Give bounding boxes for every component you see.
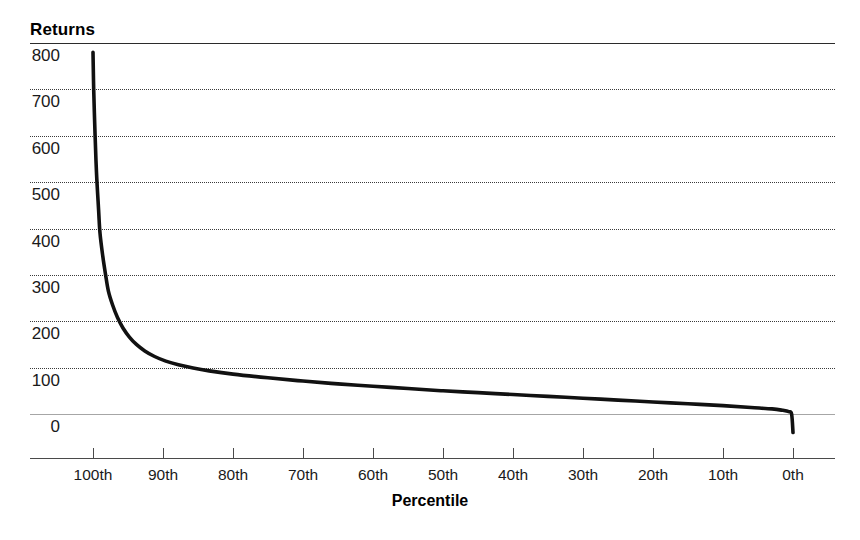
x-axis-tick-label: 100th [74, 466, 113, 484]
top-border-rule [30, 43, 835, 44]
x-axis-tick [653, 448, 654, 458]
data-curve-layer [0, 0, 860, 540]
y-axis-tick-label: 500 [16, 185, 60, 205]
x-axis-tick [793, 448, 794, 458]
gridline [30, 368, 835, 369]
gridline [30, 321, 835, 322]
x-axis-tick [163, 448, 164, 458]
y-axis-tick-label: 700 [16, 92, 60, 112]
returns-percentile-curve [93, 52, 793, 432]
gridline [30, 229, 835, 230]
x-axis-tick-label: 50th [428, 466, 458, 484]
y-axis-tick-label: 200 [16, 324, 60, 344]
zero-baseline [30, 414, 835, 415]
x-axis-tick [373, 448, 374, 458]
y-axis-tick-label: 100 [16, 371, 60, 391]
x-axis-tick-label: 40th [498, 466, 528, 484]
y-axis-tick-label: 0 [16, 417, 60, 437]
x-axis-title: Percentile [0, 492, 860, 510]
x-axis-tick-label: 20th [638, 466, 668, 484]
plot-area: 8007006005004003002001000 100th90th80th7… [0, 0, 860, 540]
x-axis-tick-label: 60th [358, 466, 388, 484]
gridline [30, 182, 835, 183]
gridline [30, 275, 835, 276]
x-axis-tick [513, 448, 514, 458]
x-axis-tick [583, 448, 584, 458]
x-axis-tick [93, 448, 94, 458]
x-axis-tick-label: 10th [708, 466, 738, 484]
x-axis-tick-label: 70th [288, 466, 318, 484]
x-axis-tick [443, 448, 444, 458]
x-axis-tick-label: 90th [148, 466, 178, 484]
x-axis-tick [723, 448, 724, 458]
x-axis-tick-label: 80th [218, 466, 248, 484]
y-axis-tick-label: 300 [16, 278, 60, 298]
x-axis-line [30, 458, 835, 459]
gridline [30, 89, 835, 90]
y-axis-tick-label: 400 [16, 232, 60, 252]
gridline [30, 136, 835, 137]
x-axis-tick [303, 448, 304, 458]
x-axis-tick [233, 448, 234, 458]
y-axis-tick-label: 800 [16, 46, 60, 66]
x-axis-tick-label: 0th [782, 466, 804, 484]
y-axis-tick-label: 600 [16, 139, 60, 159]
chart-figure: Returns 8007006005004003002001000 100th9… [0, 0, 860, 540]
x-axis-tick-label: 30th [568, 466, 598, 484]
